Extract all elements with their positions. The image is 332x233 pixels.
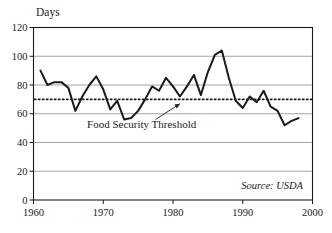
x-tick-label-1970: 1970	[93, 207, 114, 218]
source-note: Source: USDA	[241, 180, 303, 191]
days-of-grain-supply-line-chart: 020406080100120 19601970198019902000 Day…	[0, 0, 332, 233]
y-tick-label-0: 0	[22, 195, 27, 206]
y-tick-label-60: 60	[17, 108, 28, 119]
x-tick-label-1960: 1960	[23, 207, 44, 218]
y-tick-label-120: 120	[12, 22, 28, 33]
x-tick-label-2000: 2000	[302, 207, 323, 218]
chart-figure: 020406080100120 19601970198019902000 Day…	[0, 0, 332, 233]
y-tick-label-100: 100	[12, 51, 28, 62]
y-tick-label-20: 20	[17, 166, 28, 177]
chart-background	[0, 0, 332, 233]
x-tick-label-1990: 1990	[232, 207, 253, 218]
y-axis-title: Days	[36, 6, 60, 19]
x-tick-label-1980: 1980	[163, 207, 184, 218]
y-tick-label-40: 40	[17, 137, 28, 148]
threshold-label: Food Security Threshold	[87, 118, 197, 130]
y-tick-label-80: 80	[17, 80, 28, 91]
